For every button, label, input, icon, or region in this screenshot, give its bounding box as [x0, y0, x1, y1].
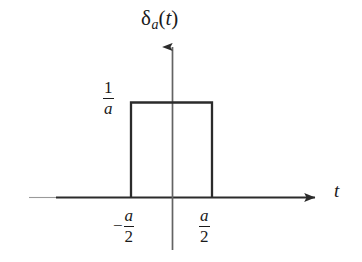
amplitude-denominator: a — [103, 100, 114, 118]
x-axis-label: t — [334, 181, 339, 200]
tick-left-numerator: a — [124, 207, 135, 225]
tick-left-fraction: a 2 — [124, 207, 135, 246]
amplitude-fraction: 1 a — [103, 79, 114, 118]
tick-left-denominator: 2 — [124, 228, 135, 246]
x-axis-tick-label-left: − a 2 — [113, 207, 134, 246]
pulse-plot-svg — [0, 0, 362, 262]
tick-right-fraction: a 2 — [199, 207, 210, 246]
tick-left-minus-sign: − — [113, 217, 123, 234]
tick-right-numerator: a — [199, 207, 210, 225]
y-axis-amplitude-label: 1 a — [103, 79, 114, 118]
title-delta-symbol: δ — [141, 6, 151, 30]
plot-title: δa(t) — [141, 8, 178, 32]
title-close-paren: ) — [171, 6, 178, 30]
x-axis-tick-label-right: a 2 — [199, 207, 210, 246]
amplitude-numerator: 1 — [103, 79, 114, 97]
pulse-waveform — [131, 103, 212, 198]
tick-right-denominator: 2 — [199, 228, 210, 246]
figure-container: δa(t) 1 a − a 2 a 2 t — [0, 0, 362, 262]
